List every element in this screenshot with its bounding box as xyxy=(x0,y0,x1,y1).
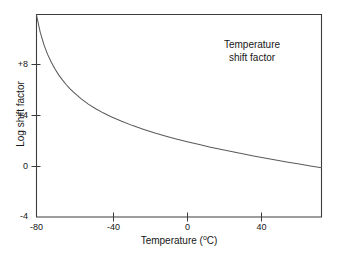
annotation-line-1: Temperature xyxy=(196,38,308,51)
x-tick-label-minus-40: -40 xyxy=(99,222,128,232)
annotation-line-2: shift factor xyxy=(196,51,308,64)
x-axis-title: Temperature (oC) xyxy=(36,235,322,247)
plot-annotation: Temperature shift factor xyxy=(196,38,308,64)
y-axis-title: Log shift factor xyxy=(15,54,27,174)
y-tick-label-minus-4: -4 xyxy=(10,211,28,221)
x-tick-label-40: 40 xyxy=(247,222,276,232)
x-tick-label-minus-80: -80 xyxy=(22,222,51,232)
chart-figure: +8 +4 0 -4 -80 -40 0 40 Temperature (oC)… xyxy=(0,0,347,256)
x-tick-label-0: 0 xyxy=(173,222,202,232)
x-axis-title-unit: C) xyxy=(207,235,218,246)
x-axis-title-text: Temperature ( xyxy=(141,235,203,246)
